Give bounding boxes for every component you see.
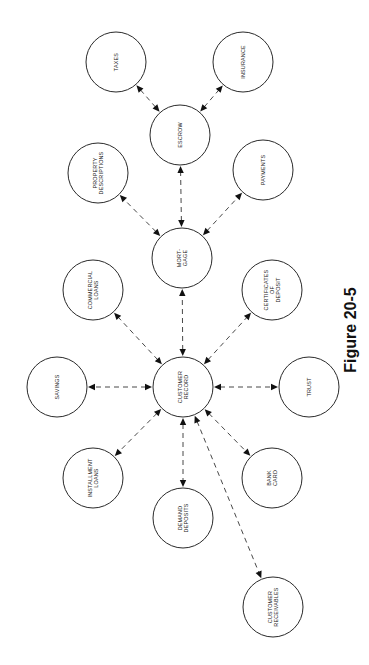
- dashed-connector: [181, 172, 182, 221]
- node-bank-card: BANKCARD: [242, 448, 302, 508]
- arrowhead-icon: [179, 289, 185, 296]
- edge-customer_record-certificates_of_deposit: [204, 313, 251, 364]
- node-payments: PAYMENTS: [233, 140, 293, 200]
- arrowhead-icon: [243, 449, 250, 456]
- arrowhead-icon: [88, 384, 95, 390]
- arrowhead-icon: [177, 166, 183, 173]
- node-label: ESCROW: [177, 122, 183, 148]
- node-label: MORT-GAGE: [176, 249, 188, 267]
- edge-escrow-taxes: [136, 85, 159, 111]
- dashed-connector: [119, 413, 157, 451]
- edge-customer_record-bank_card: [205, 409, 251, 456]
- node-mortgage: MORT-GAGE: [152, 228, 212, 288]
- node-label: SAVINGS: [54, 374, 60, 399]
- arrowhead-icon: [214, 384, 221, 390]
- edge-escrow-insurance: [200, 85, 222, 111]
- node-trust: TRUST: [279, 357, 339, 417]
- arrowhead-icon: [120, 195, 127, 202]
- node-label: PAYMENTS: [260, 155, 266, 186]
- node-taxes: TAXES: [86, 32, 146, 92]
- dashed-connector: [124, 199, 156, 231]
- figure-caption: Figure 20-5: [342, 287, 359, 372]
- node-label: BANKCARD: [266, 470, 278, 486]
- edge-mortgage-property_descriptions: [120, 195, 160, 236]
- arrowhead-icon: [115, 449, 122, 456]
- arrowhead-icon: [180, 418, 186, 425]
- node-property-descriptions: PROPERTYDESCRIPTIONS: [68, 143, 128, 203]
- node-label: DEMANDDEPOSITS: [177, 503, 189, 532]
- node-installment-loans: INSTALLMENTLOANS: [63, 448, 123, 508]
- arrowhead-icon: [180, 349, 186, 356]
- dashed-connector: [204, 90, 219, 107]
- arrowhead-icon: [145, 384, 152, 390]
- dashed-connector: [207, 197, 238, 231]
- node-certificates-of-deposit: CERTIFICATESOFDEPOSIT: [242, 260, 302, 320]
- node-commercial-loans: COMMERCIALLOANS: [63, 260, 123, 320]
- node-customer-record: CUSTOMERRECORD: [153, 357, 213, 417]
- edge-customer_record-trust: [214, 384, 278, 390]
- edge-customer_record-demand_deposits: [180, 418, 186, 487]
- node-label: TAXES: [113, 53, 119, 71]
- nodes-layer: CUSTOMERRECORDMORT-GAGEESCROWTAXESINSURA…: [27, 32, 339, 637]
- node-insurance: INSURANCE: [213, 32, 273, 92]
- arrowhead-icon: [271, 384, 278, 390]
- node-label: PROPERTYDESCRIPTIONS: [92, 151, 104, 194]
- node-escrow: ESCROW: [150, 105, 210, 165]
- arrowhead-icon: [180, 480, 186, 487]
- dashed-connector: [140, 90, 155, 107]
- edge-customer_record-installment_loans: [115, 409, 161, 456]
- dashed-connector: [208, 317, 247, 359]
- node-label: CUSTOMERRECEIVABLES: [267, 587, 279, 626]
- arrowhead-icon: [178, 220, 184, 227]
- arrowhead-icon: [235, 193, 242, 200]
- edge-customer_record-mortgage: [179, 289, 186, 356]
- node-label: TRUST: [306, 377, 312, 396]
- edge-customer_record-commercial_loans: [114, 313, 162, 365]
- edge-customer_record-savings: [88, 384, 152, 390]
- node-label: CUSTOMERRECORD: [177, 371, 189, 403]
- edge-mortgage-escrow: [177, 166, 184, 227]
- node-savings: SAVINGS: [27, 357, 87, 417]
- node-demand-deposits: DEMANDDEPOSITS: [153, 488, 213, 548]
- node-label: INSURANCE: [240, 45, 246, 79]
- edge-mortgage-payments: [203, 193, 242, 235]
- dashed-connector: [209, 413, 246, 451]
- diagram-canvas: CUSTOMERRECORDMORT-GAGEESCROWTAXESINSURA…: [0, 0, 369, 665]
- node-customer-receivables: CUSTOMERRECEIVABLES: [243, 577, 303, 637]
- dashed-connector: [118, 317, 158, 360]
